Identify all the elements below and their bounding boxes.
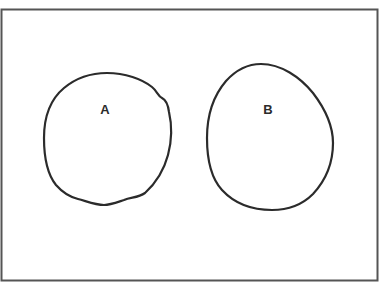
set-a-label: A [100, 102, 110, 117]
universal-set-rectangle [2, 10, 378, 281]
set-b-label: B [263, 102, 272, 117]
venn-diagram: A B [0, 0, 389, 295]
